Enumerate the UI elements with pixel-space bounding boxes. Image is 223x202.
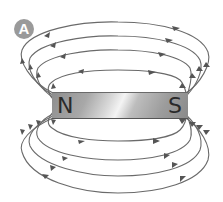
- south-pole-label: S: [168, 93, 182, 119]
- figure-label-badge: A: [14, 19, 34, 39]
- bar-magnet: N S: [52, 92, 188, 119]
- north-pole-label: N: [57, 93, 73, 119]
- field-line-upper-3: [37, 50, 192, 97]
- field-line-lower-3: [37, 114, 192, 160]
